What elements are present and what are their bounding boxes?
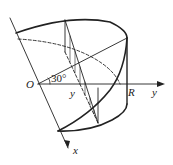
origin-label: O: [26, 78, 34, 90]
wedge-volume-diagram: O 30° y R y x: [0, 0, 173, 165]
y-axis-label: y: [151, 86, 157, 98]
radius-label: R: [127, 86, 135, 98]
top-arc: [16, 20, 127, 38]
inner-y-label: y: [69, 87, 75, 99]
y-axis-arrow-icon: [157, 81, 165, 87]
angle-label: 30°: [51, 72, 66, 84]
section-slant: [65, 20, 98, 123]
x-axis-label: x: [72, 144, 78, 156]
